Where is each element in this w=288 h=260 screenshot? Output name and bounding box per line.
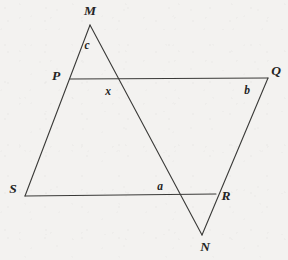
vertex-label-s: S xyxy=(9,182,17,196)
vertex-label-q: Q xyxy=(271,64,281,78)
vertex-label-p: P xyxy=(52,69,60,83)
angle-label-c: c xyxy=(84,40,89,52)
segment-p-to-q xyxy=(70,78,268,79)
angle-label-a: a xyxy=(157,181,163,193)
geometry-figure: M P Q S R N c x b a xyxy=(0,0,288,260)
segment-q-to-n xyxy=(202,78,268,235)
geometry-line-drawing xyxy=(0,0,288,260)
segment-m-to-n xyxy=(90,25,202,235)
vertex-label-n: N xyxy=(200,240,210,254)
segment-m-to-s xyxy=(25,25,90,196)
segment-s-to-r xyxy=(25,194,216,196)
segment-group xyxy=(25,25,268,235)
vertex-label-m: M xyxy=(84,4,96,18)
angle-label-x: x xyxy=(105,86,111,98)
vertex-label-r: R xyxy=(221,189,230,203)
angle-label-b: b xyxy=(244,85,250,97)
